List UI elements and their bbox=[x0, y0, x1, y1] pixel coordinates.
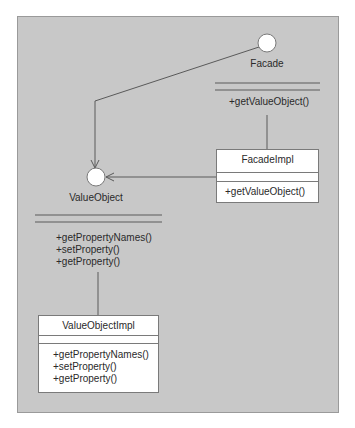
facade-operations: +getValueObject() bbox=[229, 96, 309, 108]
valueobject-interface-icon bbox=[87, 168, 105, 186]
operation: +getValueObject() bbox=[229, 96, 309, 108]
attributes-compartment bbox=[39, 336, 158, 344]
operation: +getPropertyNames() bbox=[56, 232, 152, 244]
class-name: ValueObjectImpl bbox=[39, 316, 158, 336]
operation: +setProperty() bbox=[56, 244, 152, 256]
class-name: FacadeImpl bbox=[217, 150, 318, 173]
operations-compartment: +getValueObject() bbox=[217, 182, 318, 198]
operation: +getValueObject() bbox=[225, 186, 318, 198]
operation: +getProperty() bbox=[56, 256, 152, 268]
facade-interface-icon bbox=[258, 34, 276, 52]
attributes-compartment bbox=[217, 173, 318, 182]
facade-interface-name: Facade bbox=[250, 58, 283, 70]
facadeimpl-class[interactable]: FacadeImpl +getValueObject() bbox=[216, 149, 319, 203]
operation: +setProperty() bbox=[53, 361, 158, 373]
valueobject-operations: +getPropertyNames() +setProperty() +getP… bbox=[56, 232, 152, 268]
valueobject-interface-name: ValueObject bbox=[69, 192, 123, 204]
valueobjectimpl-class[interactable]: ValueObjectImpl +getPropertyNames() +set… bbox=[38, 315, 159, 393]
operation: +getPropertyNames() bbox=[53, 349, 158, 361]
operation: +getProperty() bbox=[53, 373, 158, 385]
operations-compartment: +getPropertyNames() +setProperty() +getP… bbox=[39, 344, 158, 385]
